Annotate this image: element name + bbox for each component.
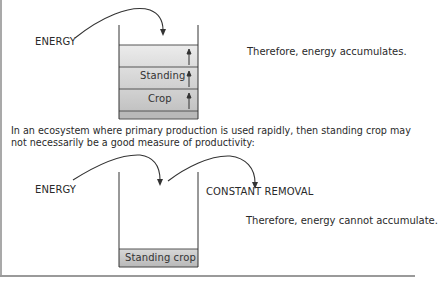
layer-standing-label: Standing (140, 70, 185, 81)
bottom-energy-arrow (73, 155, 160, 180)
layer-crop-label: Crop (148, 93, 172, 104)
removal-arrow (168, 156, 255, 183)
bottom-energy-label: ENERGY (35, 184, 76, 195)
removal-label: CONSTANT REMOVAL (206, 186, 313, 197)
standing-crop-label: Standing crop (125, 252, 196, 263)
arrow-head-icon (157, 179, 163, 186)
layer-top (119, 45, 198, 67)
layer-base (119, 111, 198, 119)
explanation-text: In an ecosystem where primary production… (11, 125, 411, 149)
top-conclusion: Therefore, energy accumulates. (247, 46, 407, 57)
arrow-head-icon (160, 29, 166, 36)
bottom-conclusion: Therefore, energy cannot accumulate. (246, 215, 438, 226)
